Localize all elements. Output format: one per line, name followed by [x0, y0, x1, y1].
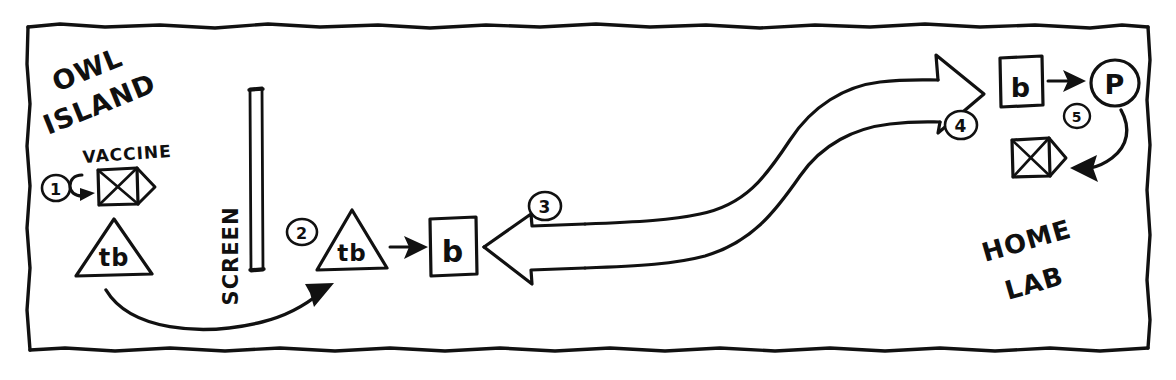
outer-frame: [27, 24, 1150, 351]
result-envelope-icon: [1012, 138, 1066, 177]
handdrawn-diagram-canvas: OWL ISLAND VACCINE 1 tb: [0, 0, 1176, 380]
triangle-to-b-arrow-icon: [390, 236, 428, 259]
region-label-home-lab: HOME LAB: [978, 214, 1074, 306]
step-2-number: 2: [296, 224, 308, 243]
box-b-center-label: b: [442, 234, 464, 269]
box-b-right: b: [1000, 56, 1043, 107]
step-1-hook-arrow-icon: [70, 175, 95, 201]
home-lab-line2: LAB: [1001, 261, 1066, 306]
vaccine-label: VACCINE: [82, 141, 172, 167]
home-lab-line1: HOME: [978, 214, 1074, 268]
screen-label: SCREEN: [219, 207, 243, 306]
step-4-marker: 4: [945, 111, 977, 139]
triangle-tb-right-label: tb: [337, 240, 366, 266]
vaccine-envelope-icon: [98, 168, 155, 205]
circle-p-label: P: [1105, 69, 1126, 100]
transport-band-arrow-icon: [484, 55, 984, 284]
step-1-marker: 1: [42, 175, 70, 201]
box-b-center: b: [430, 217, 477, 276]
circle-p-node: P: [1091, 60, 1139, 106]
step-4-number: 4: [955, 116, 968, 136]
step-5-marker: 5: [1064, 104, 1090, 128]
triangle-tb-right-icon: tb: [317, 210, 387, 270]
step-3-number: 3: [539, 197, 552, 217]
diagram-svg: OWL ISLAND VACCINE 1 tb: [0, 0, 1176, 380]
region-label-owl-island: OWL ISLAND: [39, 41, 161, 140]
box-b-right-label: b: [1011, 72, 1031, 103]
triangle-tb-left-icon: tb: [76, 219, 152, 276]
step-1-number: 1: [50, 180, 62, 199]
screen-barrier: [249, 88, 264, 271]
step-5-number: 5: [1072, 109, 1083, 125]
b-to-p-arrow-icon: [1048, 70, 1086, 92]
triangle-tb-left-label: tb: [99, 244, 130, 272]
step-3-marker: 3: [529, 192, 561, 220]
step-2-marker: 2: [287, 219, 317, 245]
